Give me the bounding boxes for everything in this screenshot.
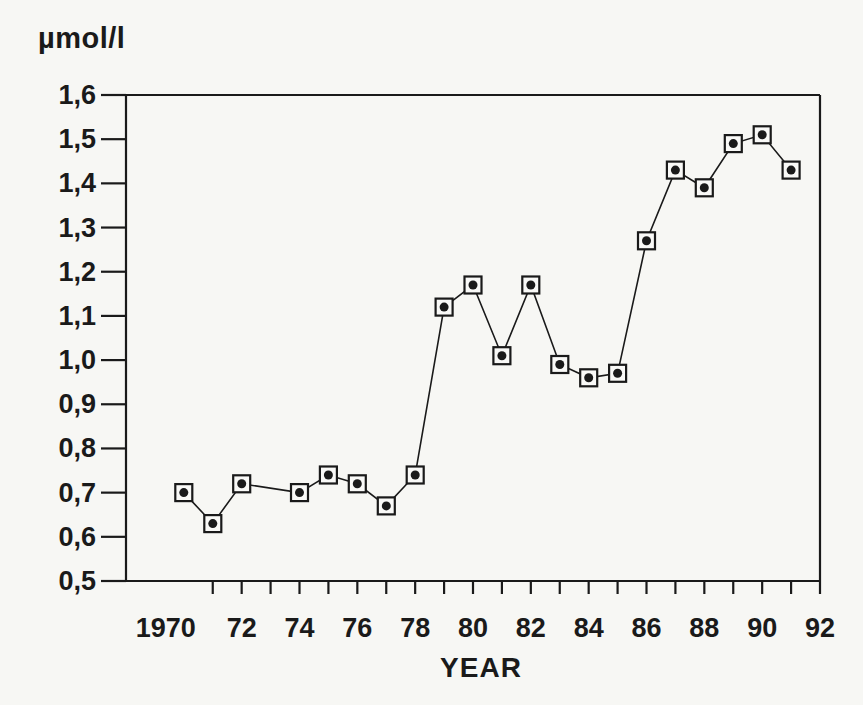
x-tick-label: 74 — [284, 613, 314, 643]
data-point-dot-1987 — [671, 166, 680, 175]
x-tick-label: 72 — [227, 613, 257, 643]
x-tick-label: 1970 — [136, 613, 196, 643]
x-tick-label: 86 — [631, 613, 661, 643]
y-tick-label: 1,4 — [58, 168, 96, 198]
data-point-dot-1983 — [555, 360, 564, 369]
data-point-dot-1981 — [497, 351, 506, 360]
y-tick-label: 1,0 — [58, 345, 96, 375]
y-tick-label: 1,2 — [58, 257, 96, 287]
x-tick-label: 90 — [747, 613, 777, 643]
data-point-dot-1974 — [295, 488, 304, 497]
x-tick-label: 92 — [805, 613, 835, 643]
data-point-dot-1984 — [584, 373, 593, 382]
x-tick-label: 88 — [689, 613, 719, 643]
x-tick-label: 84 — [574, 613, 604, 643]
data-point-dot-1970 — [179, 488, 188, 497]
data-point-dot-1982 — [526, 281, 535, 290]
data-point-dot-1985 — [613, 369, 622, 378]
data-point-dot-1977 — [382, 501, 391, 510]
y-tick-label: 0,9 — [58, 389, 96, 419]
data-point-dot-1990 — [758, 130, 767, 139]
data-point-dot-1991 — [787, 166, 796, 175]
x-axis-title: YEAR — [411, 652, 551, 684]
chart-figure: µmol/l 1,61,51,41,31,21,11,00,90,80,70,6… — [0, 0, 863, 705]
x-tick-label: 78 — [400, 613, 430, 643]
data-point-dot-1975 — [324, 471, 333, 480]
data-point-dot-1986 — [642, 236, 651, 245]
x-tick-label: 82 — [516, 613, 546, 643]
data-point-dot-1980 — [469, 281, 478, 290]
y-tick-label: 1,5 — [58, 124, 96, 154]
data-point-dot-1979 — [440, 303, 449, 312]
line-chart-canvas: 1,61,51,41,31,21,11,00,90,80,70,60,51970… — [0, 0, 863, 705]
data-point-dot-1972 — [237, 479, 246, 488]
data-point-dot-1971 — [208, 519, 217, 528]
data-point-dot-1989 — [729, 139, 738, 148]
y-tick-label: 1,3 — [58, 213, 96, 243]
data-point-dot-1978 — [411, 471, 420, 480]
y-tick-label: 0,5 — [58, 566, 96, 596]
data-point-dot-1976 — [353, 479, 362, 488]
y-tick-label: 0,7 — [58, 478, 96, 508]
y-tick-label: 0,8 — [58, 433, 96, 463]
y-tick-label: 1,1 — [58, 301, 96, 331]
y-tick-label: 1,6 — [58, 80, 96, 110]
x-tick-label: 80 — [458, 613, 488, 643]
data-point-dot-1988 — [700, 183, 709, 192]
x-tick-label: 76 — [342, 613, 372, 643]
y-tick-label: 0,6 — [58, 522, 96, 552]
